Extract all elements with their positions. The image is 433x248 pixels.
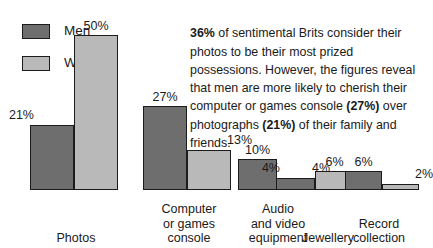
bar-group: 6%2% [345, 20, 419, 190]
bar-group: 4%6% [276, 20, 354, 190]
bar-column: 21% [30, 20, 74, 190]
category-label: Recordcollection [338, 217, 420, 247]
category-label-line: Record [338, 217, 420, 232]
bar-group: 27%13% [143, 20, 231, 190]
bar-women[interactable] [74, 35, 118, 190]
bar-column: 2% [382, 20, 419, 190]
category-label-line: Audio [232, 202, 324, 217]
bar-value-label: 2% [415, 168, 433, 181]
bar-value-label: 10% [245, 144, 270, 157]
category-label-line: or games [140, 217, 238, 232]
category-label-line: and video [232, 217, 324, 232]
category-label: Photos [30, 231, 122, 246]
bar-men[interactable] [30, 125, 74, 190]
bar-men[interactable] [143, 106, 187, 190]
bar-value-label: 21% [9, 109, 34, 122]
bar-value-label: 4% [262, 162, 280, 175]
category-label-line: Photos [30, 231, 122, 246]
bar-column: 13% [187, 20, 231, 190]
bar-women[interactable] [382, 184, 419, 190]
bar-column: 50% [74, 20, 118, 190]
category-label-line: Computer [140, 202, 238, 217]
category-label-line: collection [338, 231, 420, 246]
bar-group: 21%50% [30, 20, 118, 190]
bar-column: 27% [143, 20, 187, 190]
bar-column: 4% [276, 20, 315, 190]
bar-women[interactable] [187, 150, 231, 190]
bar-men[interactable] [276, 178, 315, 190]
bar-value-label: 6% [325, 156, 343, 169]
bar-value-label: 27% [152, 91, 177, 104]
bar-men[interactable] [345, 171, 382, 190]
bar-value-label: 50% [83, 20, 108, 33]
category-label-line: console [140, 231, 238, 246]
category-label: Computeror gamesconsole [140, 202, 238, 246]
bar-column: 6% [345, 20, 382, 190]
bar-value-label: 6% [354, 156, 372, 169]
